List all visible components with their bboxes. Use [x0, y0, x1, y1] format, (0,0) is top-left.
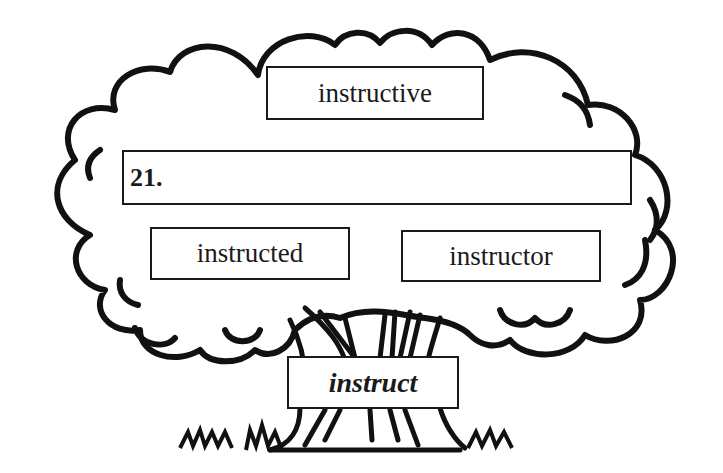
cloud-curl [650, 200, 657, 240]
branch-word: instructive [318, 78, 432, 109]
branch-box-left: instructed [150, 227, 350, 280]
cloud-curl [88, 150, 100, 178]
answer-blank-box[interactable]: 21. [122, 150, 632, 205]
cloud-curl [625, 240, 646, 285]
cloud-curl [120, 280, 138, 305]
root-word: instruct [329, 367, 418, 399]
branch-box-right: instructor [401, 230, 601, 282]
grass-tuft-right [468, 430, 512, 448]
branch-word: instructed [197, 238, 303, 269]
branch-word: instructor [449, 241, 552, 272]
branch-box-top: instructive [266, 66, 484, 120]
root-box: instruct [287, 356, 459, 409]
cloud-curl [500, 310, 570, 325]
question-number: 21. [124, 163, 163, 193]
grass-tuft-left [180, 430, 232, 448]
cloud-curl [225, 330, 260, 341]
